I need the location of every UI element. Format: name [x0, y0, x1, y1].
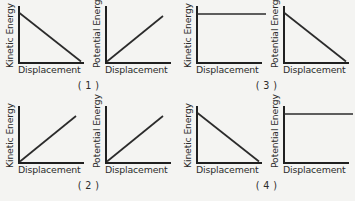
data-line-constant	[283, 106, 349, 164]
option-1[interactable]: Kinetic Energy Displacement Potential En…	[0, 0, 177, 100]
graph-option4-potential-energy: Potential Energy Displacement	[267, 102, 355, 182]
graph-option2-kinetic-energy: Kinetic Energy Displacement	[2, 102, 90, 182]
plot-area	[18, 106, 84, 164]
y-axis-label: Kinetic Energy	[3, 6, 17, 68]
data-line-increasing	[18, 106, 84, 164]
data-line-increasing	[105, 106, 171, 164]
option-number-label: ( 2 )	[0, 180, 177, 191]
graph-option4-kinetic-energy: Kinetic Energy Displacement	[180, 102, 268, 182]
graph-option3-potential-energy: Potential Energy Displacement	[267, 2, 355, 82]
physics-graph-options-figure: Kinetic Energy Displacement Potential En…	[0, 0, 355, 201]
graph-option3-kinetic-energy: Kinetic Energy Displacement	[180, 2, 268, 82]
plot-area	[283, 106, 349, 164]
plot-area	[105, 106, 171, 164]
data-line-decreasing	[18, 6, 84, 64]
y-axis-label: Potential Energy	[268, 6, 282, 68]
plot-area	[18, 6, 84, 64]
data-line-increasing	[105, 6, 171, 64]
x-axis-label: Displacement	[283, 64, 346, 75]
plot-area	[196, 6, 262, 64]
y-axis-label: Potential Energy	[90, 6, 104, 68]
y-axis-label: Potential Energy	[268, 106, 282, 168]
x-axis-label: Displacement	[283, 164, 346, 175]
x-axis-label: Displacement	[196, 64, 259, 75]
x-axis-label: Displacement	[18, 64, 81, 75]
x-axis-label: Displacement	[105, 164, 168, 175]
option-4[interactable]: Kinetic Energy Displacement Potential En…	[178, 100, 355, 200]
graph-option1-potential-energy: Potential Energy Displacement	[89, 2, 177, 82]
y-axis-label: Kinetic Energy	[3, 106, 17, 168]
graph-option2-potential-energy: Potential Energy Displacement	[89, 102, 177, 182]
x-axis-label: Displacement	[105, 64, 168, 75]
data-line-decreasing	[283, 6, 349, 64]
option-number-label: ( 4 )	[178, 180, 355, 191]
plot-area	[105, 6, 171, 64]
option-number-label: ( 3 )	[178, 80, 355, 91]
y-axis-label: Kinetic Energy	[181, 106, 195, 168]
x-axis-label: Displacement	[18, 164, 81, 175]
data-line-constant	[196, 6, 262, 64]
option-2[interactable]: Kinetic Energy Displacement Potential En…	[0, 100, 177, 200]
graph-option1-kinetic-energy: Kinetic Energy Displacement	[2, 2, 90, 82]
x-axis-label: Displacement	[196, 164, 259, 175]
plot-area	[283, 6, 349, 64]
plot-area	[196, 106, 262, 164]
y-axis-label: Kinetic Energy	[181, 6, 195, 68]
option-3[interactable]: Kinetic Energy Displacement Potential En…	[178, 0, 355, 100]
option-number-label: ( 1 )	[0, 80, 177, 91]
data-line-decreasing	[196, 106, 262, 164]
y-axis-label: Potential Energy	[90, 106, 104, 168]
